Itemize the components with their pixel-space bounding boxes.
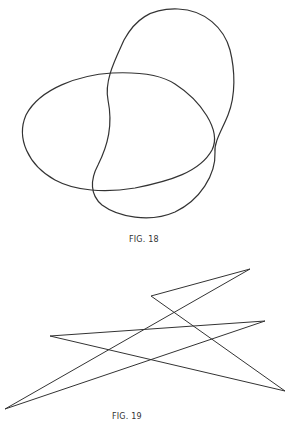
fig19-drawing	[5, 269, 285, 409]
patent-figures	[0, 0, 295, 429]
zigzag-polygon	[5, 269, 285, 409]
horizontal-loop	[23, 73, 215, 191]
fig18-caption: FIG. 18	[129, 235, 159, 244]
fig18-drawing	[23, 9, 234, 218]
vertical-loop	[92, 9, 233, 218]
fig19-caption: FIG. 19	[112, 412, 142, 421]
